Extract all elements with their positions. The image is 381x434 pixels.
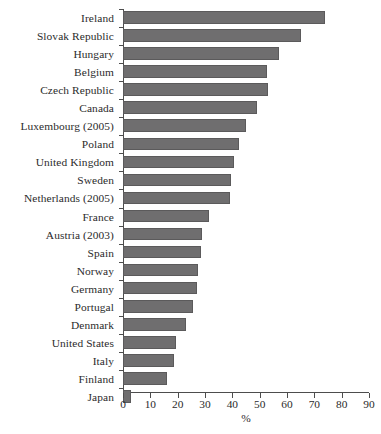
x-axis-tick-label: 20 [172, 398, 183, 410]
bar-row [123, 153, 369, 171]
y-axis-tick [119, 244, 123, 245]
bar [123, 138, 239, 151]
category-label-text: Netherlands (2005) [24, 192, 114, 204]
category-label: Sweden [0, 171, 119, 189]
bar-row [123, 117, 369, 135]
x-axis-tick-label: 80 [336, 398, 347, 410]
bar-row [123, 171, 369, 189]
category-label-text: Ireland [81, 12, 114, 24]
bar [123, 11, 325, 24]
category-label: Slovak Republic [0, 27, 119, 45]
y-axis-tick [119, 280, 123, 281]
x-axis-tick-label: 30 [199, 398, 210, 410]
x-axis-tick-label: 40 [227, 398, 238, 410]
y-axis-tick [119, 27, 123, 28]
bar-row [123, 352, 369, 370]
category-label-text: Japan [88, 391, 114, 403]
bar-row [123, 135, 369, 153]
bar-rows [123, 9, 369, 389]
category-label-text: Luxembourg (2005) [20, 120, 114, 132]
y-axis-tick [119, 81, 123, 82]
bar [123, 246, 201, 259]
category-label-text: Portugal [75, 301, 114, 313]
bar [123, 192, 230, 205]
category-label-text: Belgium [74, 66, 114, 78]
bar [123, 65, 267, 78]
x-axis-tick-label: 0 [120, 398, 126, 410]
category-label-text: Spain [88, 247, 114, 259]
y-axis-tick [119, 99, 123, 100]
category-label: United Kingdom [0, 153, 119, 171]
x-axis-tick-label: 90 [363, 398, 374, 410]
y-axis-tick [119, 135, 123, 136]
bar [123, 300, 193, 313]
bar-row [123, 334, 369, 352]
category-label: Czech Republic [0, 81, 119, 99]
y-axis-tick [119, 208, 123, 209]
x-axis-tick-label: 70 [309, 398, 320, 410]
bar-row [123, 370, 369, 388]
category-label: Finland [0, 370, 119, 388]
y-axis-tick [119, 388, 123, 389]
y-axis-tick [119, 262, 123, 263]
category-label-text: Poland [82, 138, 114, 150]
category-label: Netherlands (2005) [0, 189, 119, 207]
bar-row [123, 189, 369, 207]
bar [123, 156, 234, 169]
category-label-text: Finland [78, 373, 114, 385]
bar-row [123, 9, 369, 27]
category-label: Denmark [0, 316, 119, 334]
category-label-text: France [82, 211, 114, 223]
category-label: Spain [0, 244, 119, 262]
bar-row [123, 262, 369, 280]
category-label: Portugal [0, 298, 119, 316]
category-label: Poland [0, 135, 119, 153]
category-label-text: Canada [79, 102, 114, 114]
category-label-text: Czech Republic [40, 84, 114, 96]
category-label: Hungary [0, 45, 119, 63]
y-axis-tick [119, 352, 123, 353]
y-axis-tick [119, 334, 123, 335]
bar [123, 318, 186, 331]
category-label-text: United States [52, 337, 114, 349]
chart-figure: IrelandSlovak RepublicHungaryBelgiumCzec… [0, 0, 381, 434]
bar-row [123, 63, 369, 81]
y-axis-tick [119, 316, 123, 317]
bar [123, 228, 202, 241]
x-axis-tick-labels: 0102030405060708090 [123, 398, 369, 412]
bar-row [123, 81, 369, 99]
bar-row [123, 45, 369, 63]
y-axis-tick [119, 45, 123, 46]
category-label: Italy [0, 352, 119, 370]
category-label: Ireland [0, 9, 119, 27]
category-label: United States [0, 334, 119, 352]
y-axis-tick [119, 9, 123, 10]
category-label-text: Italy [93, 355, 114, 367]
bar-row [123, 208, 369, 226]
y-axis-tick [119, 370, 123, 371]
category-label-text: Norway [77, 265, 114, 277]
bar-row [123, 226, 369, 244]
category-label-text: Hungary [73, 48, 114, 60]
y-axis-tick [119, 153, 123, 154]
bar-row [123, 316, 369, 334]
category-label-text: Sweden [77, 174, 114, 186]
category-label: France [0, 208, 119, 226]
bar [123, 354, 174, 367]
category-label: Norway [0, 262, 119, 280]
category-label: Canada [0, 99, 119, 117]
y-axis-tick [119, 171, 123, 172]
bar-row [123, 298, 369, 316]
category-label-text: Austria (2003) [46, 229, 114, 241]
y-axis-tick [119, 63, 123, 64]
bar-row [123, 244, 369, 262]
category-label-text: United Kingdom [36, 156, 114, 168]
bar [123, 29, 301, 42]
bar [123, 210, 209, 223]
category-label: Belgium [0, 63, 119, 81]
x-axis-tick-label: 60 [281, 398, 292, 410]
category-label-text: Germany [71, 283, 114, 295]
x-axis-tick-label: 50 [254, 398, 265, 410]
bar [123, 119, 246, 132]
category-label-text: Denmark [71, 319, 114, 331]
